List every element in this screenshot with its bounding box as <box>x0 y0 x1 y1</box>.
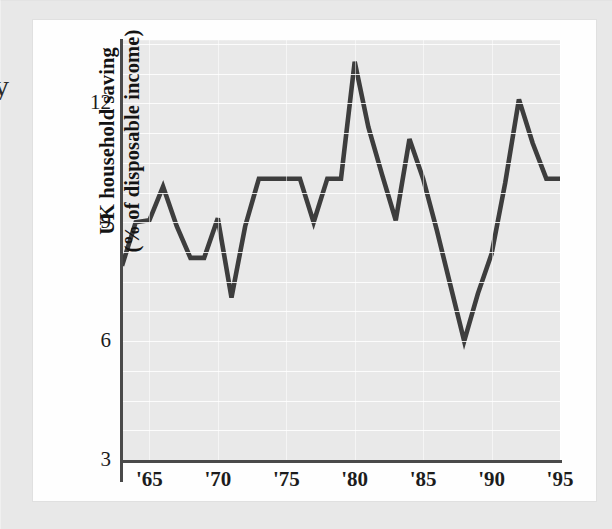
gridline <box>122 311 560 312</box>
x-axis-tick-label: '65 <box>122 469 176 490</box>
y-axis-title-line-1: UK household saving <box>95 0 120 286</box>
y-axis-title-line-2: (% of disposable income) <box>120 0 145 286</box>
x-axis-tick-label: '90 <box>465 469 519 490</box>
gridline <box>122 222 560 223</box>
x-axis-tick-label: '95 <box>533 469 587 490</box>
gridline-vertical <box>355 40 356 460</box>
gridline <box>122 44 560 45</box>
y-axis-title: UK household saving (% of disposable inc… <box>95 0 145 286</box>
gridline <box>122 371 560 372</box>
gridline <box>122 252 560 253</box>
gridline-vertical <box>286 40 287 460</box>
gridline <box>122 282 560 283</box>
figure-card: 36912 '65'70'75'80'85'90'95 UK household… <box>33 20 596 501</box>
clipped-edge-glyph: y <box>0 72 12 100</box>
y-axis-tick-label: 6 <box>75 330 111 351</box>
page-background: y 36912 '65'70'75'80'85'90'95 UK house <box>0 0 612 529</box>
gridline <box>122 341 560 342</box>
gridline-vertical <box>423 40 424 460</box>
y-axis-tick-label: 3 <box>75 449 111 470</box>
gridline <box>122 103 560 104</box>
line-chart-figure: 36912 '65'70'75'80'85'90'95 UK household… <box>33 20 596 501</box>
gridline-vertical <box>560 40 561 460</box>
gridline-vertical <box>218 40 219 460</box>
gridline <box>122 163 560 164</box>
x-axis-tick-label: '85 <box>396 469 450 490</box>
x-axis-tick-label: '70 <box>191 469 245 490</box>
x-axis-line <box>120 460 562 463</box>
gridline <box>122 430 560 431</box>
gridline <box>122 133 560 134</box>
gridline <box>122 401 560 402</box>
gridline <box>122 193 560 194</box>
gridline-vertical <box>492 40 493 460</box>
x-axis-tick-label: '75 <box>259 469 313 490</box>
gridline-vertical <box>149 40 150 460</box>
gridline <box>122 74 560 75</box>
x-axis-tick-label: '80 <box>328 469 382 490</box>
plot-area <box>122 40 560 460</box>
